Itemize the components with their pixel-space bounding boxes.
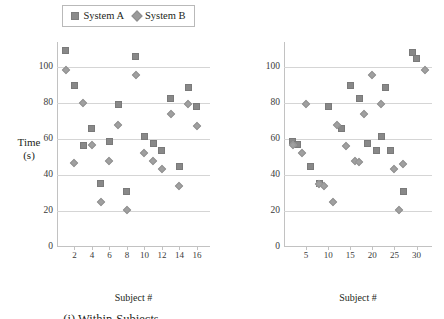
- x-tickmark: [127, 247, 128, 250]
- data-point-system-a: [413, 55, 420, 62]
- data-point-system-a: [123, 188, 130, 195]
- x-tick-label-right: 15: [346, 251, 355, 260]
- data-point-system-b: [88, 141, 96, 149]
- x-tickmark: [372, 247, 373, 250]
- data-point-system-a: [88, 125, 95, 132]
- x-tick-label-left: 14: [175, 251, 184, 260]
- y-tick-label-right: 100: [266, 62, 280, 72]
- data-point-system-b: [368, 71, 376, 79]
- y-axis-label-line-2: (s): [6, 149, 52, 162]
- x-tickmark: [197, 247, 198, 250]
- x-tick-label-left: 10: [140, 251, 149, 260]
- x-tickmark: [179, 247, 180, 250]
- x-tick-label-right: 5: [304, 251, 309, 260]
- x-tick-label-left: 2: [72, 251, 77, 260]
- panel-between-subjects: Time (s) 02040608010051015202530 Subject…: [222, 30, 444, 319]
- data-point-system-b: [328, 198, 336, 206]
- x-tickmark: [144, 247, 145, 250]
- data-point-system-a: [150, 140, 157, 147]
- y-tick-label-right: 60: [271, 134, 281, 144]
- x-tickmark: [162, 247, 163, 250]
- data-point-system-b: [149, 156, 157, 164]
- x-tickmark: [92, 247, 93, 250]
- data-point-system-a: [325, 103, 332, 110]
- data-point-system-a: [141, 133, 148, 140]
- data-point-system-b: [166, 110, 174, 118]
- data-point-system-b: [131, 71, 139, 79]
- chart-legend: System A System B: [62, 5, 195, 27]
- data-point-system-a: [387, 147, 394, 154]
- figure-container: System A System B Time (s) 0204060801002…: [0, 0, 444, 319]
- data-point-system-b: [123, 206, 131, 214]
- data-point-system-a: [373, 147, 380, 154]
- plot-area-right: 02040608010051015202530: [284, 42, 432, 247]
- x-tick-label-right: 30: [412, 251, 421, 260]
- y-tick-label-right: 20: [271, 206, 281, 216]
- data-point-system-a: [378, 133, 385, 140]
- data-point-system-a: [307, 163, 314, 170]
- plot-area-left: 020406080100246810121416: [57, 42, 210, 247]
- gridline-y: [284, 139, 432, 140]
- data-point-system-b: [175, 182, 183, 190]
- data-point-system-b: [158, 165, 166, 173]
- gridline-y: [57, 211, 210, 212]
- x-axis-label-left: Subject #: [57, 293, 210, 303]
- data-point-system-b: [342, 142, 350, 150]
- y-tick-label-left: 100: [39, 62, 53, 72]
- data-point-system-b: [399, 160, 407, 168]
- square-marker-icon: [71, 12, 79, 20]
- data-point-system-a: [80, 142, 87, 149]
- x-tick-label-left: 16: [192, 251, 201, 260]
- x-tick-label-right: 10: [324, 251, 333, 260]
- data-point-system-a: [364, 140, 371, 147]
- data-point-system-b: [79, 99, 87, 107]
- gridline-y: [284, 67, 432, 68]
- data-point-system-b: [96, 198, 104, 206]
- y-tick-label-left: 0: [48, 242, 53, 252]
- y-axis-line-right: [284, 42, 285, 247]
- y-tick-label-right: 0: [275, 242, 280, 252]
- y-tick-label-right: 80: [271, 98, 281, 108]
- x-axis-line-left: [57, 246, 210, 247]
- data-point-system-a: [400, 188, 407, 195]
- x-tickmark: [306, 247, 307, 250]
- x-tickmark: [109, 247, 110, 250]
- x-tick-label-right: 20: [368, 251, 377, 260]
- x-tickmark: [417, 247, 418, 250]
- x-tick-label-left: 8: [125, 251, 130, 260]
- data-point-system-b: [302, 100, 310, 108]
- data-point-system-a: [185, 84, 192, 91]
- x-tickmark: [328, 247, 329, 250]
- x-tick-label-right: 25: [390, 251, 399, 260]
- y-tick-label-left: 60: [44, 134, 54, 144]
- data-point-system-a: [176, 163, 183, 170]
- data-point-system-a: [193, 103, 200, 110]
- data-point-system-a: [167, 95, 174, 102]
- x-tick-label-left: 6: [107, 251, 112, 260]
- data-point-system-a: [356, 95, 363, 102]
- data-point-system-a: [115, 101, 122, 108]
- legend-entry-system-b: System B: [133, 11, 186, 22]
- data-point-system-a: [347, 82, 354, 89]
- data-point-system-a: [71, 82, 78, 89]
- gridline-y: [57, 67, 210, 68]
- data-point-system-a: [106, 138, 113, 145]
- gridline-y: [57, 139, 210, 140]
- data-point-system-b: [114, 120, 122, 128]
- x-axis-label-right: Subject #: [284, 293, 432, 303]
- data-point-system-b: [377, 100, 385, 108]
- data-point-system-a: [62, 47, 69, 54]
- gridline-y: [57, 175, 210, 176]
- gridline-y: [284, 175, 432, 176]
- data-point-system-a: [158, 147, 165, 154]
- data-point-system-a: [132, 53, 139, 60]
- data-point-system-b: [297, 149, 305, 157]
- data-point-system-b: [395, 206, 403, 214]
- data-point-system-a: [382, 84, 389, 91]
- data-point-system-b: [184, 100, 192, 108]
- caption-left: (i) Within-Subjects: [0, 313, 222, 319]
- panel-within-subjects: Time (s) 020406080100246810121416 Subjec…: [0, 30, 222, 319]
- data-point-system-b: [390, 165, 398, 173]
- y-tick-label-left: 20: [44, 206, 54, 216]
- legend-label-system-a: System A: [83, 11, 124, 22]
